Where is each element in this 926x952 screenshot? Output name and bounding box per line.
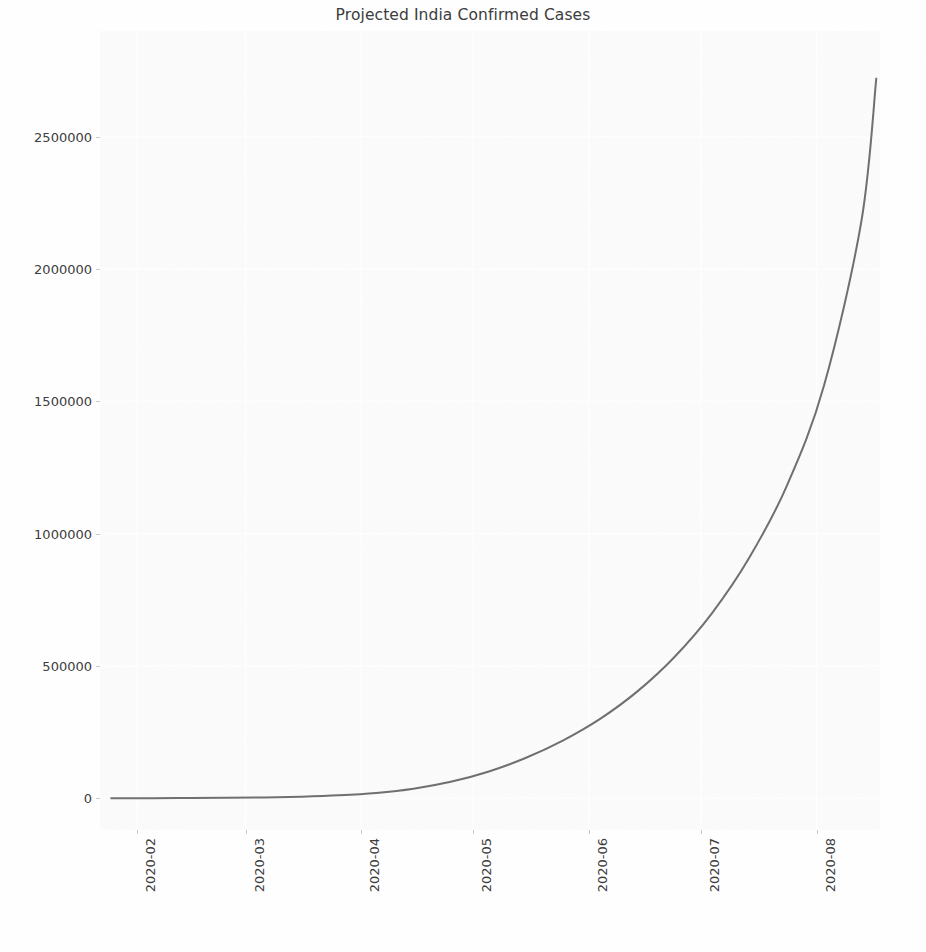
x-tick-label: 2020-03 <box>252 838 267 892</box>
y-axis-labels: 05000001000000150000020000002500000 <box>0 31 92 830</box>
x-tick-mark <box>361 830 362 834</box>
y-tick-label: 1000000 <box>4 526 92 541</box>
y-tick-mark <box>96 798 100 799</box>
y-tick-mark <box>96 666 100 667</box>
x-tick-label: 2020-02 <box>143 838 158 892</box>
x-tick-mark <box>589 830 590 834</box>
y-tick-mark <box>96 269 100 270</box>
x-tick-mark <box>817 830 818 834</box>
y-tick-mark <box>96 137 100 138</box>
x-tick-label: 2020-07 <box>707 838 722 892</box>
y-tick-mark <box>96 534 100 535</box>
y-tick-label: 1500000 <box>4 394 92 409</box>
plot-area <box>100 31 880 830</box>
x-tick-mark <box>473 830 474 834</box>
x-tick-mark <box>701 830 702 834</box>
y-tick-label: 2500000 <box>4 129 92 144</box>
x-tick-mark <box>137 830 138 834</box>
x-tick-label: 2020-08 <box>823 838 838 892</box>
data-series-line <box>100 31 880 830</box>
chart-title: Projected India Confirmed Cases <box>0 6 926 24</box>
x-tick-mark <box>246 830 247 834</box>
x-tick-label: 2020-06 <box>595 838 610 892</box>
series-path <box>111 79 876 799</box>
y-tick-mark <box>96 401 100 402</box>
y-tick-label: 0 <box>4 791 92 806</box>
x-tick-label: 2020-04 <box>367 838 382 892</box>
y-tick-label: 500000 <box>4 658 92 673</box>
x-axis-labels: 2020-022020-032020-042020-052020-062020-… <box>100 830 880 952</box>
x-tick-label: 2020-05 <box>479 838 494 892</box>
y-tick-label: 2000000 <box>4 262 92 277</box>
chart-figure: Projected India Confirmed Cases 05000001… <box>0 0 926 952</box>
